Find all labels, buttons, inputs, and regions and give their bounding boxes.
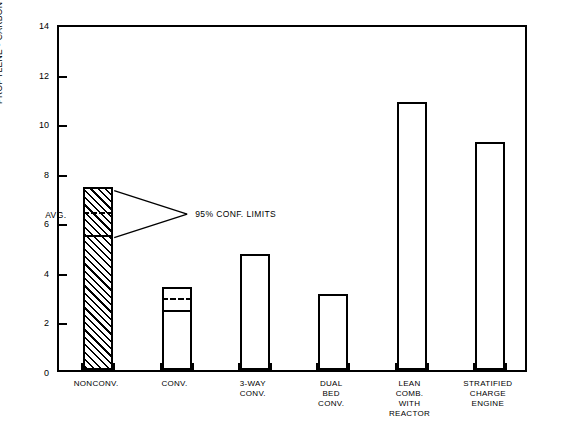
chart-page: PROPYLENE - CARBON PERCENT 02468101214 A… xyxy=(0,0,561,432)
y-axis-tick-label: 0 xyxy=(23,369,49,378)
x-axis-category-label: CONV. xyxy=(130,379,220,389)
conf-limits-leader-lines xyxy=(59,27,529,374)
x-axis-category-label: DUAL BED CONV. xyxy=(286,379,376,409)
y-axis-tick-label: 8 xyxy=(23,171,49,180)
x-axis-category-label: STRATIFIED CHARGE ENGINE xyxy=(443,379,533,409)
y-axis-tick-label: 10 xyxy=(23,121,49,130)
y-axis-tick-label: 12 xyxy=(23,72,49,81)
y-axis-tick-label: 2 xyxy=(23,319,49,328)
x-axis-category-label: LEAN COMB. WITH REACTOR xyxy=(365,379,455,419)
conf-limits-annotation-label: 95% CONF. LIMITS xyxy=(195,209,276,219)
x-axis-category-label: NONCONV. xyxy=(51,379,141,389)
plot-frame: 02468101214 AVG. 95% CONF. LIMITS xyxy=(57,25,527,372)
avg-annotation-label: AVG. xyxy=(45,210,66,220)
y-axis-title: PROPYLENE - CARBON PERCENT xyxy=(0,0,4,104)
x-axis-category-label: 3-WAY CONV. xyxy=(208,379,298,399)
y-axis-tick-label: 4 xyxy=(23,270,49,279)
conf-upper-leader xyxy=(114,191,187,215)
y-axis-tick-label: 6 xyxy=(23,220,49,229)
conf-lower-leader xyxy=(114,214,187,238)
y-axis-tick-label: 14 xyxy=(23,22,49,31)
